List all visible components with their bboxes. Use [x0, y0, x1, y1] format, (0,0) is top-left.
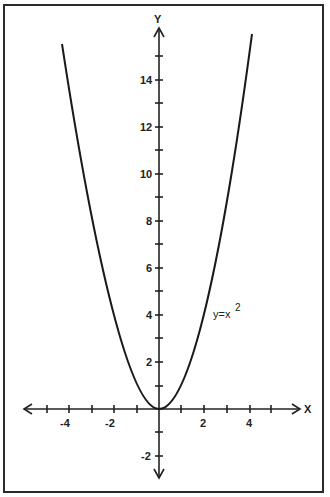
x-tick-label: -2 [105, 417, 115, 429]
x-tick-label: -4 [60, 417, 71, 429]
x-axis-label: X [304, 403, 312, 415]
x-tick-label: 2 [200, 417, 206, 429]
y-tick-label: 12 [140, 121, 152, 133]
equation-label: y=x [213, 308, 231, 320]
y-tick-label: 10 [140, 168, 152, 180]
y-tick-label: 2 [146, 356, 152, 368]
y-tick-label: -2 [141, 450, 151, 462]
equation-exponent: 2 [235, 302, 241, 313]
y-tick-label: 4 [146, 309, 153, 321]
parabola-chart: Y X -4 -2 2 4 -2 2 4 6 8 10 12 14 y=x 2 [0, 0, 330, 497]
y-tick-label: 8 [146, 215, 152, 227]
y-axis [154, 28, 164, 478]
y-tick-label: 14 [140, 74, 153, 86]
y-tick-label: 6 [146, 262, 152, 274]
x-tick-label: 4 [246, 417, 253, 429]
y-axis-label: Y [154, 13, 162, 25]
